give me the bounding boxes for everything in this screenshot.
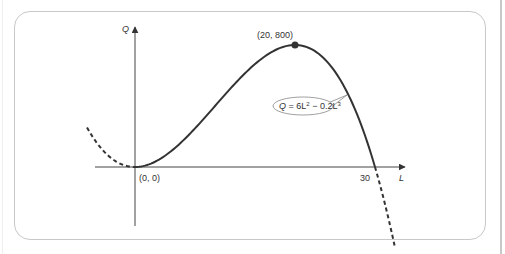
eq-term2: − 0.2L	[310, 101, 338, 111]
production-function-chart: Q L (0, 0) (20, 800) 30 Q = 6L2 − 0.2L3	[0, 0, 505, 254]
x-axis-label: L	[399, 173, 404, 183]
eq-q: Q	[279, 101, 286, 111]
peak-label: (20, 800)	[257, 30, 293, 40]
eq-sup2: 3	[337, 101, 341, 107]
curve-dashed-right	[375, 167, 395, 248]
peak-marker	[292, 42, 299, 49]
root-label: 30	[360, 173, 370, 183]
svg-text:Q = 6L2 − 0.2L3: Q = 6L2 − 0.2L3	[279, 101, 341, 111]
equation-callout: Q = 6L2 − 0.2L3	[273, 95, 347, 115]
origin-label: (0, 0)	[139, 173, 160, 183]
y-axis-label: Q	[122, 24, 129, 34]
curve-dashed-left	[87, 127, 135, 167]
eq-term1: = 6L	[286, 101, 306, 111]
